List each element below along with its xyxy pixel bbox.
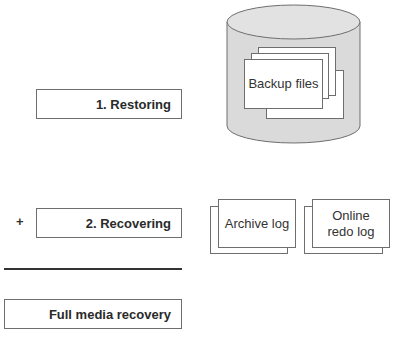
- database-cylinder-icon: [0, 0, 398, 337]
- backup-files-label: Backup files: [244, 59, 323, 109]
- full-media-recovery-box: Full media recovery: [4, 299, 182, 329]
- recovering-step-box: 2. Recovering: [36, 208, 182, 238]
- restoring-step-box: 1. Restoring: [36, 89, 182, 119]
- archive-log-label: Archive log: [218, 199, 296, 248]
- online-redo-log-label: Online redo log: [312, 199, 390, 248]
- sum-divider: [4, 268, 182, 270]
- plus-sign: +: [16, 214, 24, 229]
